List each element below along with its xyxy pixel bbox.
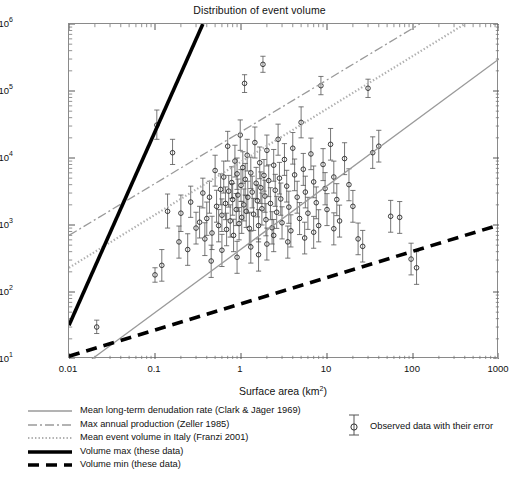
legend-entry-label: Mean long-term denudation rate (Clark & …: [80, 404, 301, 417]
x-tick-label: 1: [237, 363, 242, 374]
legend-entry-label: Max annual production (Zeller 1985): [80, 418, 229, 431]
reference-line: [69, 24, 203, 325]
reference-line: [92, 59, 499, 359]
chart-legend: Observed data with their error Mean long…: [0, 404, 519, 474]
legend-observed-label: Observed data with their error: [370, 420, 493, 433]
legend-observed-entry: Observed data with their error: [344, 412, 519, 442]
y-tick-label: 102: [0, 286, 13, 297]
y-tick-label: 103: [0, 219, 13, 230]
errorbar-marker-icon: [344, 412, 364, 438]
data-points-group: [94, 56, 419, 333]
y-tick-label: 101: [0, 353, 13, 364]
plot-area: [68, 23, 498, 358]
legend-line-swatch: [26, 431, 74, 444]
legend-line-swatch: [26, 404, 74, 417]
chart-root: Distribution of event volume 10110210310…: [0, 0, 519, 477]
x-tick-label: 100: [404, 363, 420, 374]
reference-line: [69, 225, 499, 356]
legend-entry-label: Mean event volume in Italy (Franzi 2001): [80, 431, 248, 444]
y-tick-label: 105: [0, 85, 13, 96]
y-tick-label: 104: [0, 152, 13, 163]
legend-line-swatch: [26, 445, 74, 458]
x-tick-label: 0.01: [59, 363, 78, 374]
x-tick-label: 10: [321, 363, 332, 374]
x-tick-label: 1000: [487, 363, 508, 374]
x-axis-label-text: Surface area (km: [239, 385, 320, 397]
legend-entry-label: Volume max (these data): [80, 445, 183, 458]
x-axis-label: Surface area (km2): [68, 385, 498, 397]
legend-line-swatch: [26, 418, 74, 431]
legend-line-swatch: [26, 458, 74, 471]
chart-title: Distribution of event volume: [0, 4, 519, 16]
y-tick-label: 106: [0, 18, 13, 29]
legend-entry-label: Volume min (these data): [80, 458, 181, 471]
x-tick-label: 0.1: [147, 363, 160, 374]
x-axis-label-close: ): [323, 385, 327, 397]
plot-svg: [69, 24, 499, 359]
